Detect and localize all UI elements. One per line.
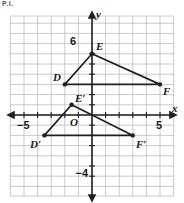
tick-label-y-pos-6: 6 (70, 35, 76, 47)
vertex-label-F-prime: F′ (135, 138, 146, 150)
tick-label-x-pos-5: 5 (156, 119, 162, 131)
vertex-E-prime (69, 103, 73, 107)
y-axis-arrow-up (89, 12, 95, 18)
vertex-label-D-prime: D′ (29, 138, 41, 150)
triangle-DEF (63, 52, 163, 87)
tick-label-x-neg-5: −5 (17, 119, 30, 131)
x-axis-arrow-left (8, 112, 14, 118)
y-axis-label: y (94, 8, 101, 20)
origin-label: O (70, 116, 78, 128)
x-axis-label: x (171, 102, 178, 114)
vertex-F-prime (131, 133, 135, 137)
y-axis-arrow-down (89, 195, 95, 201)
vertex-label-F: F (162, 85, 171, 97)
vertex-label-E-prime: E′ (74, 92, 85, 104)
vertex-D (63, 82, 67, 86)
vertex-label-D: D (52, 71, 61, 83)
vertex-E (90, 52, 94, 56)
vertex-F (158, 82, 162, 86)
vertex-label-E: E (95, 40, 103, 52)
vertex-D-prime (42, 133, 46, 137)
tick-label-y-neg-4: −4 (75, 167, 88, 179)
figure-canvas: P.I. (0, 0, 184, 203)
axes (8, 12, 176, 201)
coordinate-plane-svg: D E F D′ E′ F′ y x −5 5 6 −4 O (0, 0, 184, 203)
triangle-D-prime-E-prime-F-prime (42, 103, 135, 138)
